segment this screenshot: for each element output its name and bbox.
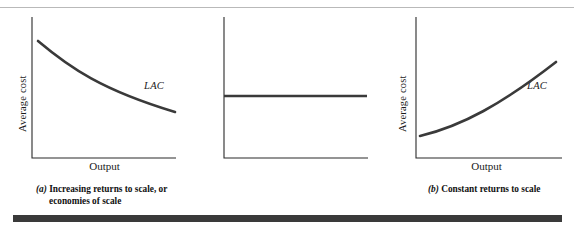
chart-b — [190, 0, 382, 180]
caption-a: (a) Increasing returns to scale, or econ… — [36, 184, 186, 207]
economies-of-scale-figure: Average cost Output LAC (a) Increasing r… — [0, 0, 574, 232]
caption-text-a-line1: Increasing returns to scale, or — [47, 184, 168, 194]
axes-b — [224, 17, 368, 158]
x-axis-label-a: Output — [32, 160, 177, 172]
panel-a: Average cost Output LAC (a) Increasing r… — [0, 0, 190, 215]
caption-text-a-line2: economies of scale — [49, 196, 186, 208]
lac-curve-c — [420, 62, 556, 136]
y-axis-label-a: Average cost — [17, 75, 28, 132]
panel-c: Average cost Output LAC (c) Decreasing r… — [382, 0, 574, 215]
curve-label-a: LAC — [144, 80, 164, 91]
caption-letter-a: (a) — [36, 184, 47, 194]
axis-lines-c — [416, 17, 562, 158]
bottom-divider-bar — [13, 215, 562, 222]
axes-c — [416, 17, 562, 158]
axis-lines-b — [224, 17, 368, 158]
chart-c — [382, 0, 574, 180]
lac-curve-a — [38, 41, 175, 112]
panel-b: Average cost Output LAC (b) Constant ret… — [190, 0, 382, 215]
